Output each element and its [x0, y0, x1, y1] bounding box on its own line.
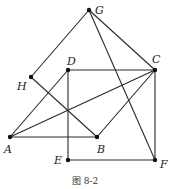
- label-G: G: [95, 4, 104, 17]
- label-D: D: [66, 55, 76, 68]
- points: GHDCABEF: [3, 4, 168, 171]
- point-C: [153, 68, 157, 72]
- label-H: H: [16, 80, 27, 93]
- segments: [10, 10, 155, 160]
- point-H: [29, 75, 33, 79]
- segment-GH: [31, 10, 89, 77]
- label-A: A: [3, 143, 12, 156]
- label-F: F: [159, 158, 168, 171]
- segment-GC: [89, 10, 155, 70]
- point-A: [8, 135, 12, 139]
- point-F: [153, 158, 157, 162]
- point-E: [66, 158, 70, 162]
- geometry-figure: GHDCABEF 图 8-2: [0, 0, 170, 189]
- point-G: [87, 8, 91, 12]
- point-B: [95, 135, 99, 139]
- label-C: C: [152, 53, 161, 66]
- label-E: E: [53, 154, 62, 167]
- label-B: B: [96, 143, 105, 156]
- segment-AC: [10, 70, 155, 137]
- point-D: [66, 68, 70, 72]
- figure-caption: 图 8-2: [72, 176, 98, 186]
- segment-BC: [97, 70, 155, 137]
- segment-HB: [31, 77, 97, 137]
